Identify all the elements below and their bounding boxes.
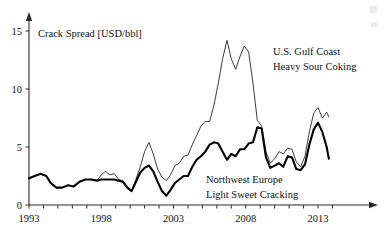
series-line-northwest-europe (29, 123, 329, 196)
x-axis-arrowhead (369, 202, 378, 208)
x-tick-label: 2013 (308, 213, 329, 224)
tick-marks (26, 31, 333, 209)
y-tick-label: 0 (17, 200, 22, 211)
chart-canvas: 051015 19931998200320082013 Crack Spread… (0, 0, 389, 244)
annotation-northwest-europe-line1: Northwest Europe (206, 174, 283, 185)
x-axis-tick-labels: 19931998200320082013 (19, 213, 329, 224)
y-axis-title: Crack Spread [USD/bbl] (38, 28, 142, 39)
y-axis-arrowhead (26, 12, 32, 21)
crack-spread-chart: 051015 19931998200320082013 Crack Spread… (0, 0, 389, 244)
y-tick-label: 5 (17, 142, 22, 153)
scan-artifacts (370, 6, 377, 27)
annotation-northwest-europe-line2: Light Sweet Cracking (206, 189, 299, 200)
y-axis-tick-labels: 051015 (12, 26, 23, 211)
x-tick-label: 2003 (163, 213, 184, 224)
x-tick-label: 2008 (235, 213, 256, 224)
axes (26, 12, 378, 208)
x-tick-label: 1998 (91, 213, 112, 224)
y-tick-label: 10 (12, 84, 23, 95)
y-tick-label: 15 (12, 26, 23, 37)
annotation-us-gulf-coast-line2: Heavy Sour Coking (273, 61, 357, 72)
annotation-us-gulf-coast-line1: U.S. Gulf Coast (273, 46, 340, 57)
x-tick-label: 1993 (19, 213, 40, 224)
